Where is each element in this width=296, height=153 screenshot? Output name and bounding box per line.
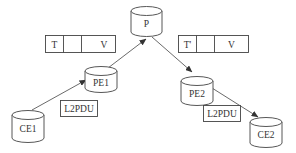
- right-label-header: T' V: [179, 36, 249, 53]
- node-p-label: P: [144, 19, 149, 29]
- node-ce1: CE1: [12, 111, 44, 143]
- node-p: P: [131, 7, 162, 37]
- left-header-field-t: T: [52, 40, 58, 50]
- right-header-field-v: V: [228, 40, 235, 50]
- right-pdu-box: L2PDU: [204, 106, 241, 122]
- node-ce2: CE2: [250, 118, 282, 148]
- right-header-field-t-prime: T': [184, 40, 192, 50]
- left-header-field-v: V: [101, 40, 108, 50]
- left-pdu-label: L2PDU: [64, 104, 94, 114]
- left-label-header: T V: [46, 36, 116, 53]
- node-ce2-label: CE2: [258, 130, 275, 140]
- node-pe1-label: PE1: [93, 78, 109, 88]
- node-pe1: PE1: [85, 67, 117, 93]
- node-pe2: PE2: [181, 77, 213, 106]
- node-ce1-label: CE1: [20, 124, 37, 134]
- node-pe2-label: PE2: [189, 89, 205, 99]
- right-pdu-label: L2PDU: [207, 109, 237, 119]
- diagram-canvas: P PE1 PE2 CE1 CE2 T V T' V: [0, 0, 296, 153]
- left-pdu-box: L2PDU: [61, 101, 98, 117]
